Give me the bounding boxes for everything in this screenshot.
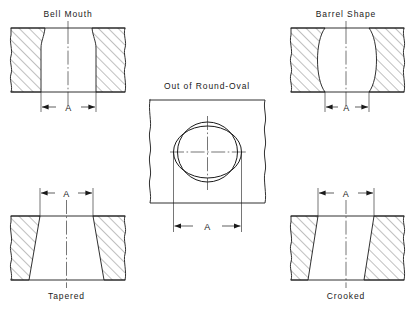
crooked-right-wall-hatch <box>364 216 405 280</box>
bell-mouth-left-wall-hatch <box>10 28 45 92</box>
diagram-canvas: Bell Mouth A Barrel Shape <box>0 0 415 310</box>
figure-label-tapered: Tapered <box>48 291 85 301</box>
crooked-dimension-label: A <box>343 189 350 199</box>
bell-mouth-right-wall-hatch <box>92 28 126 92</box>
barrel-left-wall-hatch <box>290 28 325 92</box>
figure-barrel-shape: Barrel Shape A <box>290 9 404 113</box>
crooked-left-wall-hatch <box>290 216 318 280</box>
figure-tapered: A Tapered <box>10 188 125 301</box>
tapered-dimension-label: A <box>63 189 70 199</box>
figure-label-barrel-shape: Barrel Shape <box>316 9 376 19</box>
figure-label-bell-mouth: Bell Mouth <box>43 9 92 19</box>
oval-dimension-label: A <box>204 222 211 232</box>
figure-label-crooked: Crooked <box>327 291 365 301</box>
figure-label-out-of-round-oval: Out of Round-Oval <box>164 81 250 91</box>
bore-defects-diagram: Bell Mouth A Barrel Shape <box>0 0 415 310</box>
figure-crooked: A Crooked <box>290 188 404 301</box>
tapered-left-wall-hatch <box>10 216 40 280</box>
barrel-dimension-label: A <box>343 103 350 113</box>
tapered-right-wall-hatch <box>93 216 126 280</box>
figure-out-of-round-oval: Out of Round-Oval A <box>149 81 265 232</box>
figure-bell-mouth: Bell Mouth A <box>10 9 125 113</box>
barrel-right-wall-hatch <box>369 28 405 92</box>
bell-mouth-dimension-label: A <box>65 103 72 113</box>
